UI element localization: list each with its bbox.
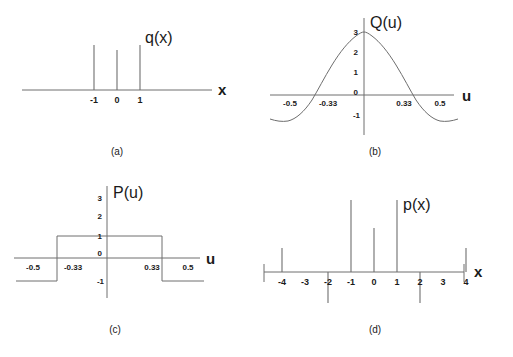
y-tick-label-minus1: -1 bbox=[353, 111, 361, 120]
x-tick-label-minus0p33: -0.33 bbox=[319, 99, 338, 108]
tick-label-minus4: -4 bbox=[278, 277, 286, 287]
y-tick-label-0: 0 bbox=[354, 88, 359, 97]
panel-c-plot: -0.5 -0.33 0.33 0.5 3 2 1 0 -1 u P(u) (c… bbox=[0, 178, 256, 357]
tick-label-0: 0 bbox=[371, 277, 376, 287]
x-tick-label-0p33: 0.33 bbox=[396, 99, 412, 108]
x-tick-label-0p5: 0.5 bbox=[434, 99, 446, 108]
y-tick-label-1: 1 bbox=[98, 232, 103, 241]
y-tick-label-0: 0 bbox=[98, 249, 103, 258]
function-label-Q: Q(u) bbox=[370, 14, 402, 31]
tick-label-minus2: -2 bbox=[324, 277, 332, 287]
panel-caption-b: (b) bbox=[369, 146, 381, 157]
x-tick-label-minus0p5: -0.5 bbox=[26, 263, 40, 272]
panel-caption-d: (d) bbox=[369, 324, 381, 335]
tick-label-0: 0 bbox=[114, 95, 119, 105]
y-tick-label-3: 3 bbox=[98, 194, 103, 203]
panel-d-plot: -4 -3 -2 -1 0 1 2 3 4 x p(x) (d) bbox=[256, 178, 513, 357]
panel-c: -0.5 -0.33 0.33 0.5 3 2 1 0 -1 u P(u) (c… bbox=[0, 178, 256, 357]
y-tick-label-2: 2 bbox=[354, 48, 359, 57]
tick-label-minus3: -3 bbox=[301, 277, 309, 287]
tick-label-1: 1 bbox=[137, 95, 142, 105]
function-label-p: p(x) bbox=[403, 196, 431, 213]
panel-caption-a: (a) bbox=[111, 146, 123, 157]
y-tick-label-minus1: -1 bbox=[97, 277, 105, 286]
x-axis-label: u bbox=[206, 250, 215, 267]
tick-label-2: 2 bbox=[417, 277, 422, 287]
x-axis-label: u bbox=[462, 87, 471, 104]
tick-label-minus1: -1 bbox=[347, 277, 355, 287]
panel-caption-c: (c) bbox=[109, 324, 121, 335]
tick-label-3: 3 bbox=[440, 277, 445, 287]
function-label-P: P(u) bbox=[113, 184, 143, 201]
figure-canvas: -1 0 1 x q(x) (a) -0.5 -0.33 0.33 0.5 3 bbox=[0, 0, 513, 357]
panel-b: -0.5 -0.33 0.33 0.5 3 2 1 0 -1 u Q(u) (b… bbox=[256, 0, 513, 178]
tick-label-1: 1 bbox=[394, 277, 399, 287]
panel-a: -1 0 1 x q(x) (a) bbox=[0, 0, 256, 178]
panel-b-plot: -0.5 -0.33 0.33 0.5 3 2 1 0 -1 u Q(u) (b… bbox=[256, 0, 513, 178]
tick-label-4: 4 bbox=[463, 277, 468, 287]
y-tick-label-3: 3 bbox=[354, 28, 359, 37]
tick-label-minus1: -1 bbox=[90, 95, 98, 105]
x-tick-label-0p5: 0.5 bbox=[182, 263, 194, 272]
x-tick-label-minus0p5: -0.5 bbox=[283, 99, 297, 108]
panel-d: -4 -3 -2 -1 0 1 2 3 4 x p(x) (d) bbox=[256, 178, 513, 357]
x-tick-label-minus0p33: -0.33 bbox=[64, 263, 83, 272]
x-axis-label: x bbox=[218, 81, 227, 98]
x-tick-label-0p33: 0.33 bbox=[144, 263, 160, 272]
function-label-q: q(x) bbox=[145, 29, 173, 46]
y-tick-label-1: 1 bbox=[354, 68, 359, 77]
panel-a-plot: -1 0 1 x q(x) (a) bbox=[0, 0, 256, 178]
x-axis-label: x bbox=[474, 263, 483, 280]
y-tick-label-2: 2 bbox=[98, 212, 103, 221]
